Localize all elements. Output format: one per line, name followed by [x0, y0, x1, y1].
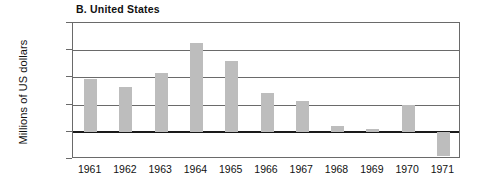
y-axis-label: Millions of US dollars [17, 17, 29, 167]
plot-area [72, 22, 460, 158]
bar [155, 73, 168, 132]
gridline [73, 50, 459, 51]
y-tick-mark [66, 158, 72, 159]
gridline [73, 77, 459, 78]
x-tick-label: 1971 [419, 163, 465, 175]
bar [119, 87, 132, 132]
bar [84, 79, 97, 132]
bar [366, 129, 379, 132]
bar [402, 105, 415, 132]
bar [190, 43, 203, 131]
bar [437, 132, 450, 156]
bar [261, 93, 274, 132]
bar [225, 61, 238, 132]
chart-title: B. United States [76, 3, 160, 15]
bar [296, 101, 309, 132]
chart-figure: B. United States Millions of US dollars … [0, 0, 479, 189]
bar [331, 126, 344, 131]
